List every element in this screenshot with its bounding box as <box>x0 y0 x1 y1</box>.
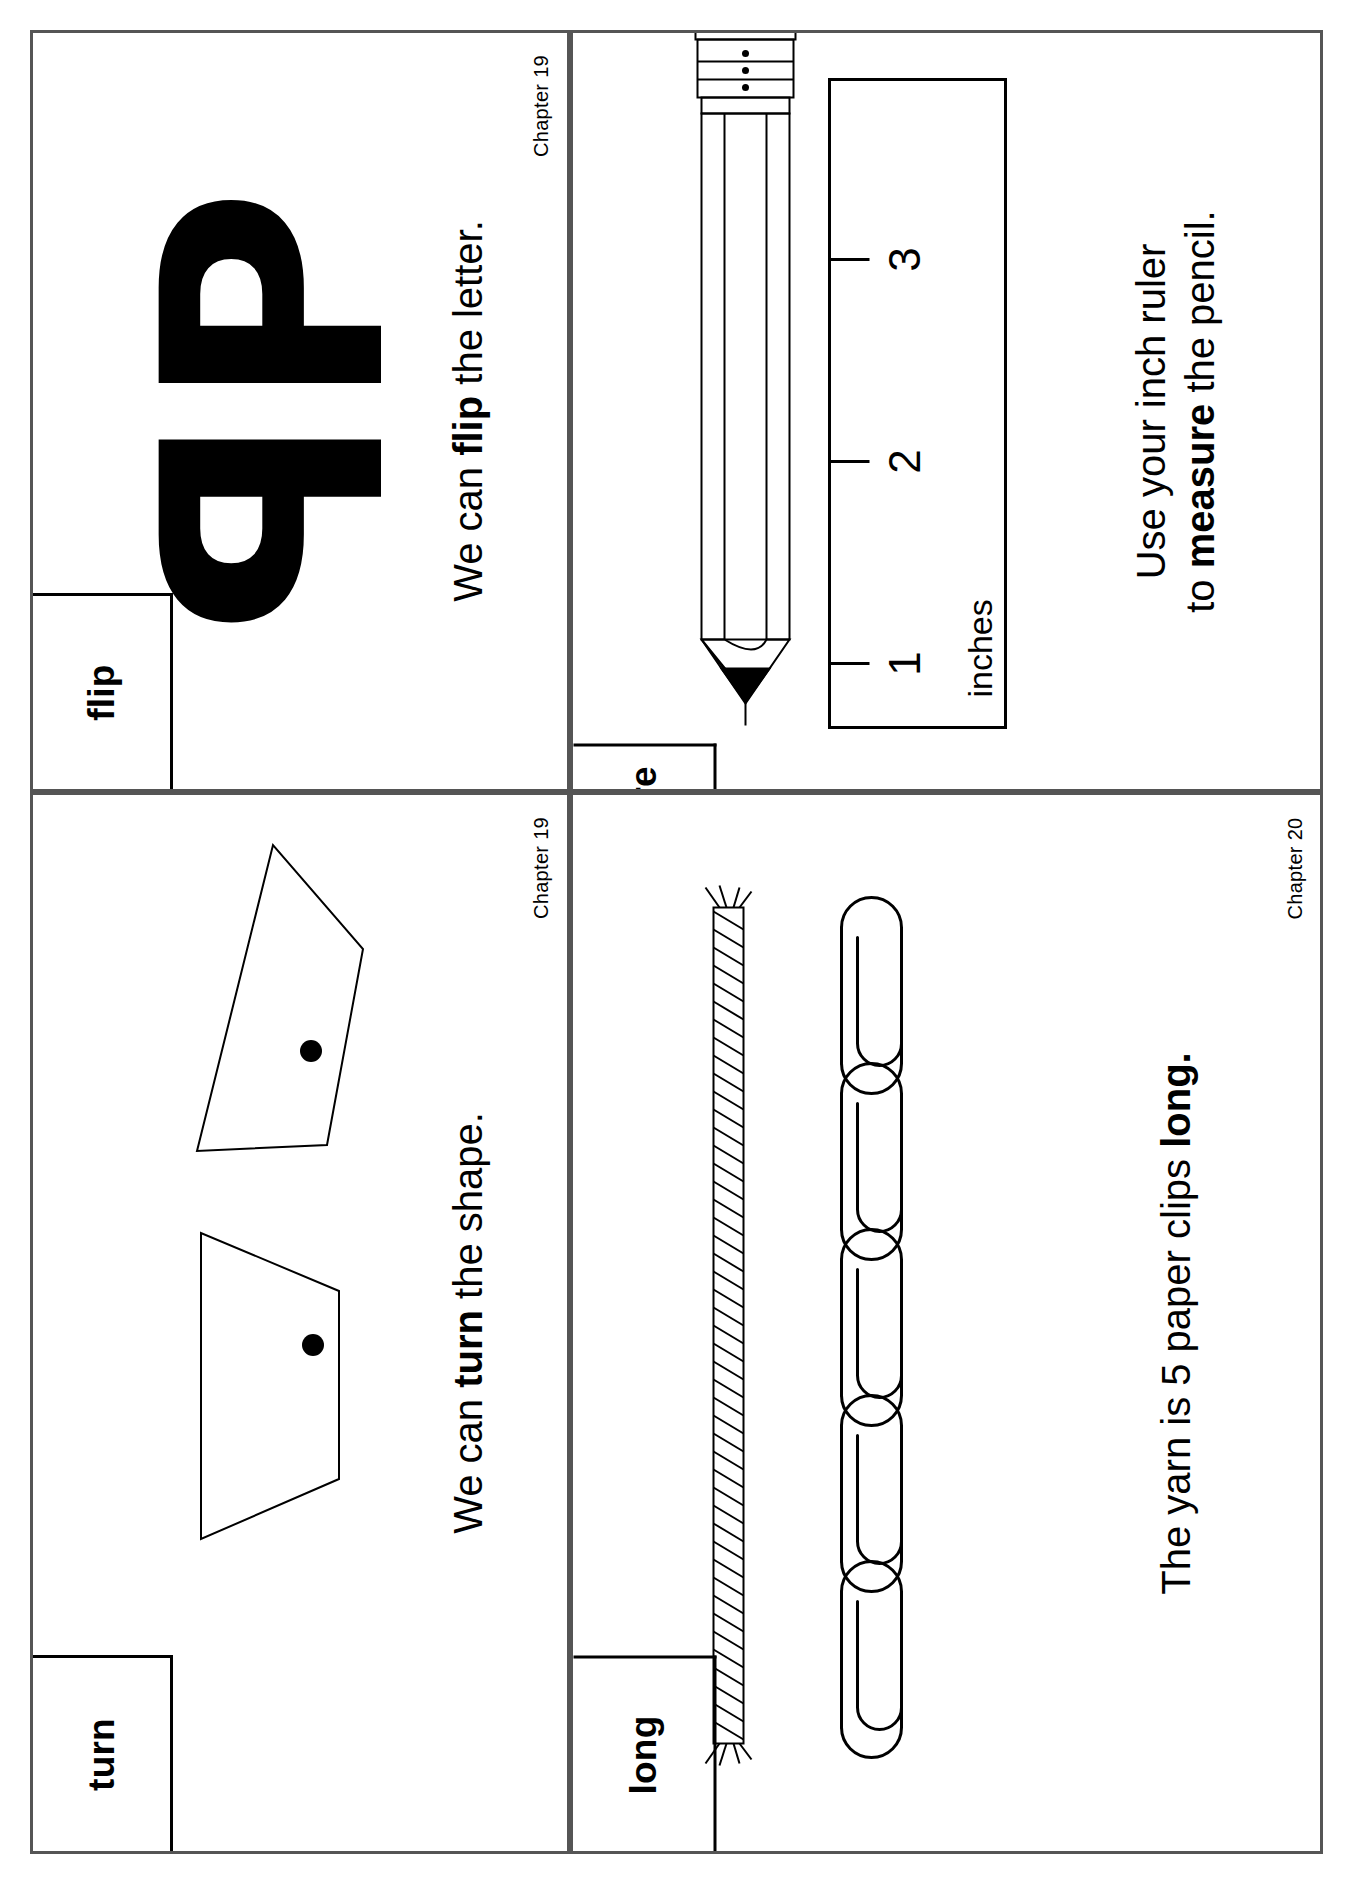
sentence-measure-keyword: measure <box>1177 403 1221 568</box>
measure-illustration: 1 2 3 inches <box>583 30 1053 792</box>
card-measure-content: measure <box>573 30 1320 792</box>
trapezoid-turned <box>197 845 363 1151</box>
sentence-flip-keyword: flip <box>446 396 490 456</box>
sentence-long-prefix: The yarn is 5 paper clips <box>1153 1147 1197 1594</box>
worksheet-page: flip PP We can flip the letter. Chapter … <box>30 30 1323 1854</box>
pencil-icon <box>695 30 795 725</box>
sentence-measure-line2-prefix: to <box>1177 568 1221 612</box>
card-measure[interactable]: measure <box>570 30 1323 792</box>
yarn-and-paperclips-drawing <box>593 795 1023 1851</box>
paper-clip <box>841 897 901 1093</box>
flip-illustration: PP <box>151 33 451 789</box>
chapter-tag-turn: Chapter 19 <box>530 817 553 919</box>
mirrored-letter-glyph: P <box>151 411 401 635</box>
sentence-flip-prefix: We can <box>446 456 490 602</box>
rotated-shapes-drawing <box>123 795 453 1851</box>
ruler-tick-label-3: 3 <box>879 247 928 271</box>
long-illustration <box>593 795 1023 1851</box>
card-turn-content: turn We can turn the shape <box>33 795 567 1851</box>
paper-clip-row <box>841 897 901 1757</box>
sentence-turn-keyword: turn <box>446 1310 490 1388</box>
card-flip-content: flip PP We can flip the letter. Chapter … <box>33 33 567 789</box>
sentence-flip: We can flip the letter. <box>444 33 493 789</box>
sentence-measure: Use your inch ruler to measure the penci… <box>1126 30 1224 792</box>
pencil-and-ruler-drawing: 1 2 3 inches <box>583 30 1053 792</box>
ruler-tick-label-1: 1 <box>879 651 928 675</box>
card-long[interactable]: long <box>570 792 1323 1854</box>
chapter-tag-long: Chapter 20 <box>1283 817 1306 919</box>
ruler-tick-label-2: 2 <box>879 449 928 473</box>
sentence-turn-suffix: the shape. <box>446 1112 490 1310</box>
letter-glyph: P <box>151 187 401 411</box>
sentence-long-keyword: long. <box>1153 1052 1197 1148</box>
card-flip[interactable]: flip PP We can flip the letter. Chapter … <box>30 30 570 792</box>
sentence-flip-suffix: the letter. <box>446 220 490 396</box>
sentence-turn-prefix: We can <box>446 1388 490 1534</box>
card-turn[interactable]: turn We can turn the shape <box>30 792 570 1854</box>
trapezoid-original <box>201 1233 339 1539</box>
chapter-tag-flip: Chapter 19 <box>530 55 553 157</box>
yarn-icon <box>705 885 751 1765</box>
turn-illustration <box>123 795 453 1851</box>
ruler-unit-label: inches <box>960 599 998 697</box>
vocabulary-word-turn: turn <box>81 1718 123 1791</box>
sentence-turn: We can turn the shape. <box>444 795 493 1851</box>
card-long-content: long <box>573 795 1320 1851</box>
vocabulary-word-flip: flip <box>81 664 123 720</box>
sentence-measure-line1: Use your inch ruler <box>1128 243 1172 579</box>
sentence-measure-line2-suffix: the pencil. <box>1177 210 1221 403</box>
sentence-long: The yarn is 5 paper clips long. <box>1151 795 1200 1851</box>
